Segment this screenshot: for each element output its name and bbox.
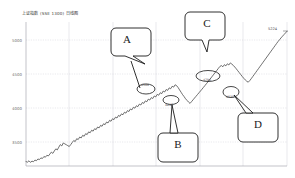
callout-label-d: D <box>246 118 270 130</box>
callout-tail-b <box>170 105 178 133</box>
annotation-markers <box>137 71 239 105</box>
price-line <box>26 31 287 162</box>
callout-tail-d <box>234 95 253 113</box>
end-value-label: 5224 <box>268 27 277 31</box>
chart-plot-area <box>0 0 295 178</box>
callout-label-c: C <box>195 17 219 29</box>
point-value-b: 4248 <box>165 103 173 107</box>
point-value-a: 4500 <box>141 83 149 87</box>
callout-leader-a <box>131 61 140 88</box>
chart-canvas: 上证指数 (SSE 1300) 日线图 5000 4500 4000 3500 <box>0 0 295 178</box>
point-value-c: 4796 <box>203 78 211 82</box>
point-value-d: 4535 <box>226 95 234 99</box>
callout-label-b: B <box>166 138 190 150</box>
callout-label-a: A <box>115 33 139 45</box>
